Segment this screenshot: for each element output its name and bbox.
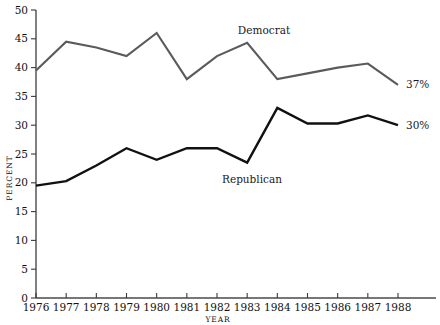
x-tick-label: 1986 — [324, 301, 351, 313]
y-tick-label: 40 — [15, 61, 28, 73]
line-chart: 05101520253035404550 1976197719781979198… — [0, 0, 440, 325]
x-tick-label: 1984 — [264, 301, 291, 313]
series-label-republican: Republican — [222, 173, 282, 185]
x-tick-label: 1977 — [53, 301, 80, 313]
series-annotations: DemocratRepublican37%30% — [222, 24, 429, 185]
series-line-republican — [36, 108, 398, 186]
y-axis-title: PERCENT — [5, 155, 14, 200]
y-tick-label: 50 — [15, 4, 28, 16]
y-tick-label: 45 — [15, 32, 28, 44]
series-label-democrat: Democrat — [238, 24, 291, 36]
y-tick-label: 20 — [15, 176, 28, 188]
x-tick-label: 1982 — [204, 301, 231, 313]
x-axis-title: YEAR — [204, 315, 230, 324]
x-tick-label: 1983 — [234, 301, 261, 313]
y-tick-label: 10 — [15, 234, 28, 246]
end-label-republican: 30% — [406, 119, 429, 131]
x-tick-label: 1980 — [143, 301, 170, 313]
x-tick-label: 1985 — [294, 301, 321, 313]
y-tick-label: 15 — [15, 205, 28, 217]
y-axis: 05101520253035404550 — [15, 4, 36, 304]
x-axis: 1976197719781979198019811982198319841985… — [23, 293, 436, 313]
series-line-democrat — [36, 33, 398, 85]
y-tick-label: 30 — [15, 119, 28, 131]
series-lines — [36, 33, 398, 186]
y-tick-label: 5 — [21, 263, 28, 275]
chart-canvas: 05101520253035404550 1976197719781979198… — [0, 0, 440, 325]
y-tick-label: 25 — [15, 148, 28, 160]
x-tick-label: 1987 — [354, 301, 381, 313]
x-tick-label: 1976 — [23, 301, 50, 313]
y-tick-label: 35 — [15, 90, 28, 102]
x-tick-label: 1981 — [173, 301, 200, 313]
x-tick-label: 1978 — [83, 301, 110, 313]
x-tick-label: 1979 — [113, 301, 140, 313]
x-tick-label: 1988 — [385, 301, 412, 313]
end-label-democrat: 37% — [406, 78, 429, 90]
